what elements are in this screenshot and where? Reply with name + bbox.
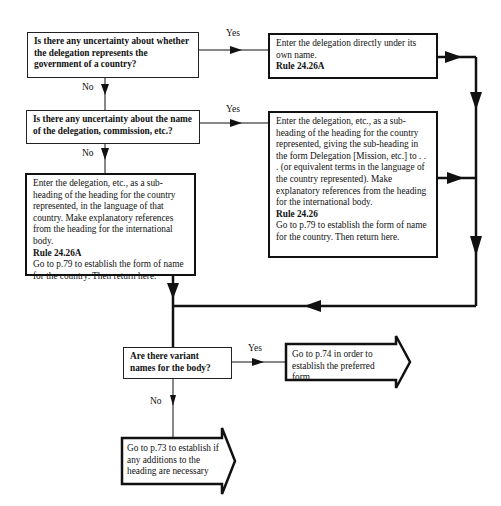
decision-q3: Are there variant names for the body? (123, 347, 232, 379)
action-a1-rule: Rule 24.26A (276, 61, 430, 73)
edge-label-yes-q1: Yes (226, 28, 240, 38)
terminal-t1-text: Go to p.74 in order to establish the pre… (292, 349, 392, 384)
decision-q2: Is there any uncertainty about the name … (26, 110, 200, 144)
action-a3-text: Enter the delegation, etc., as a sub-hea… (33, 178, 188, 248)
action-a2-rule: Rule 24.26 (276, 209, 430, 221)
action-a2-text: Enter the delegation, etc., as a sub-hea… (276, 116, 430, 209)
terminal-t2: Go to p.73 to establish if any additions… (125, 442, 223, 482)
edge-label-no-q2: No (82, 148, 94, 158)
decision-q2-text: Is there any uncertainty about the name … (33, 114, 193, 137)
action-a2-followup: Go to p.79 to establish the form of name… (276, 220, 430, 243)
action-a3-rule: Rule 24.26A (33, 248, 188, 260)
action-a2: Enter the delegation, etc., as a sub-hea… (268, 111, 438, 258)
decision-q1-text: Is there any uncertainty about whether t… (34, 36, 192, 71)
terminal-t2-text: Go to p.73 to establish if any additions… (127, 443, 221, 478)
action-a1: Enter the delegation directly under its … (268, 33, 438, 79)
decision-q1: Is there any uncertainty about whether t… (27, 32, 199, 78)
edge-label-yes-q2: Yes (226, 104, 240, 114)
action-a3: Enter the delegation, etc., as a sub-hea… (25, 173, 196, 276)
edge-label-no-q1: No (82, 82, 94, 92)
edge-label-no-q3: No (150, 396, 162, 406)
action-a3-followup: Go to p.79 to establish the form of name… (33, 259, 188, 282)
terminal-t1: Go to p.74 in order to establish the pre… (290, 347, 394, 377)
edge-label-yes-q3: Yes (248, 343, 262, 353)
action-a1-text: Enter the delegation directly under its … (276, 38, 430, 61)
decision-q3-text: Are there variant names for the body? (130, 351, 225, 374)
